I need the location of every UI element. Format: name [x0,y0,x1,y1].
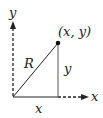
point-label: (x, y) [58,24,91,39]
hypotenuse-r [13,43,58,97]
vertical-leg-label: y [63,61,72,76]
polar-coordinates-diagram: y (x, y) R y x x [0,0,103,118]
y-axis-arrow-icon [10,21,16,29]
point-marker [56,41,61,46]
horizontal-leg-label: x [35,101,43,116]
hypotenuse-label: R [23,56,34,71]
y-axis-label: y [8,5,17,20]
x-axis-arrow-icon [81,94,89,100]
x-axis-label: x [91,89,99,104]
